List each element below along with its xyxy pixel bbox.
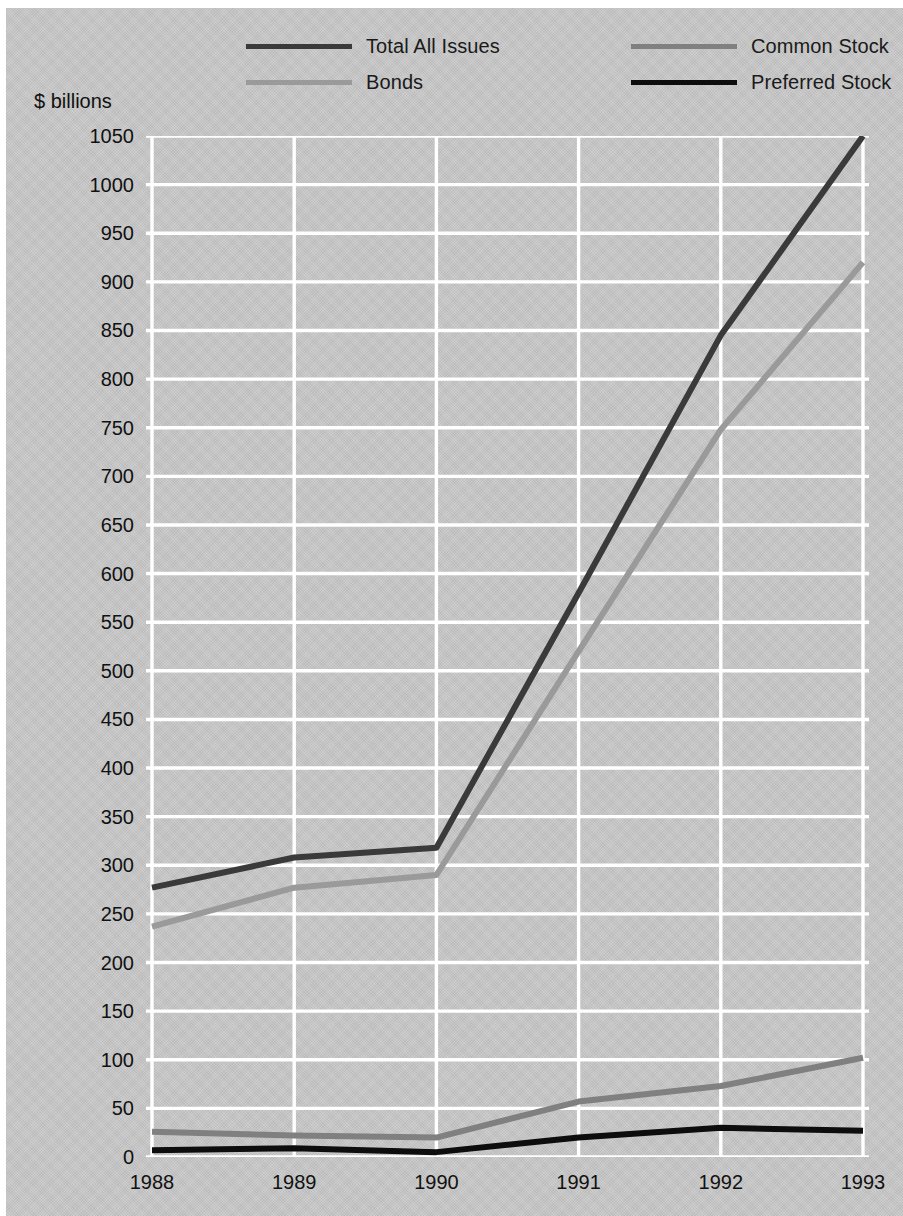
x-axis-tick-label: 1990	[414, 1171, 459, 1194]
y-axis-tick-label: 1050	[90, 125, 135, 148]
y-axis-tick-labels: 0501001502002503003504004505005506006507…	[6, 136, 134, 1157]
series-line-total-all-issues	[152, 136, 863, 888]
plot-area	[146, 136, 869, 1157]
y-axis-tick-label: 450	[101, 708, 134, 731]
x-axis-tick-label: 1991	[556, 1171, 601, 1194]
chart-figure: Total All Issues Common Stock Bonds Pref…	[6, 8, 903, 1216]
y-axis-tick-label: 200	[101, 951, 134, 974]
y-axis-tick-label: 150	[101, 1000, 134, 1023]
plot-wrapper: 0501001502002503003504004505005506006507…	[6, 8, 903, 1216]
chart-canvas	[146, 136, 869, 1157]
y-axis-tick-label: 600	[101, 562, 134, 585]
y-axis-tick-label: 350	[101, 805, 134, 828]
y-axis-tick-label: 550	[101, 611, 134, 634]
y-axis-tick-label: 250	[101, 902, 134, 925]
y-axis-tick-label: 800	[101, 368, 134, 391]
y-axis-tick-label: 900	[101, 270, 134, 293]
x-axis-tick-label: 1993	[841, 1171, 886, 1194]
y-axis-tick-label: 500	[101, 659, 134, 682]
series-line-bonds	[152, 262, 863, 926]
y-axis-tick-label: 850	[101, 319, 134, 342]
y-axis-tick-label: 750	[101, 416, 134, 439]
y-axis-tick-label: 950	[101, 222, 134, 245]
x-axis-tick-labels: 198819891990199119921993	[146, 1171, 869, 1201]
y-axis-tick-label: 1000	[90, 173, 135, 196]
y-axis-tick-label: 0	[123, 1146, 134, 1169]
y-axis-tick-label: 50	[112, 1097, 134, 1120]
y-axis-tick-label: 650	[101, 513, 134, 536]
y-axis-tick-label: 300	[101, 854, 134, 877]
y-axis-tick-label: 400	[101, 757, 134, 780]
y-axis-tick-label: 100	[101, 1048, 134, 1071]
x-axis-tick-label: 1989	[272, 1171, 317, 1194]
x-axis-tick-label: 1992	[699, 1171, 744, 1194]
x-axis-tick-label: 1988	[130, 1171, 175, 1194]
y-axis-tick-label: 700	[101, 465, 134, 488]
series-line-preferred-stock	[152, 1128, 863, 1152]
